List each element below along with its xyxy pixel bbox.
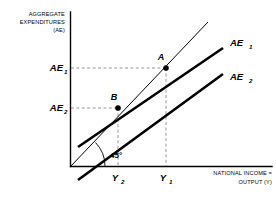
x-axis-label-line-1: NATIONAL INCOME = bbox=[213, 170, 272, 176]
series-label-ae1: AE bbox=[229, 37, 244, 48]
x-axis-label-line-2: OUTPUT (Y) bbox=[239, 179, 272, 185]
point-a-dot bbox=[163, 65, 168, 70]
aggregate-expenditures-chart: AGGREGATE EXPENDITURES (AE) NATIONAL INC… bbox=[0, 0, 276, 197]
angle-label-45-degrees: 45° bbox=[110, 151, 122, 160]
ae2-line bbox=[78, 74, 223, 180]
series-sub-ae1: 1 bbox=[249, 43, 253, 50]
x-tick-label-y1: Y bbox=[160, 172, 168, 183]
ae1-line bbox=[78, 48, 223, 147]
y-axis-label-line-1: AGGREGATE bbox=[29, 11, 65, 17]
point-label-b: B bbox=[111, 92, 118, 102]
x-tick-sub-y2: 2 bbox=[120, 178, 125, 185]
x-tick-sub-y1: 1 bbox=[169, 178, 173, 185]
y-tick-label-ae2: AE bbox=[49, 102, 64, 113]
y-tick-sub-ae2: 2 bbox=[63, 108, 68, 115]
series-sub-ae2: 2 bbox=[248, 77, 253, 84]
y-tick-sub-ae1: 1 bbox=[64, 68, 68, 75]
chart-canvas: AGGREGATE EXPENDITURES (AE) NATIONAL INC… bbox=[0, 0, 276, 197]
y-axis-label-line-2: EXPENDITURES bbox=[20, 19, 65, 25]
y-tick-label-ae1: AE bbox=[49, 62, 64, 73]
series-label-ae2: AE bbox=[229, 71, 244, 82]
point-label-a: A bbox=[157, 52, 165, 62]
x-tick-label-y2: Y bbox=[112, 172, 120, 183]
forty-five-degree-line bbox=[71, 22, 208, 166]
point-b-dot bbox=[115, 105, 120, 110]
y-axis-label-line-3: (AE) bbox=[53, 27, 65, 33]
